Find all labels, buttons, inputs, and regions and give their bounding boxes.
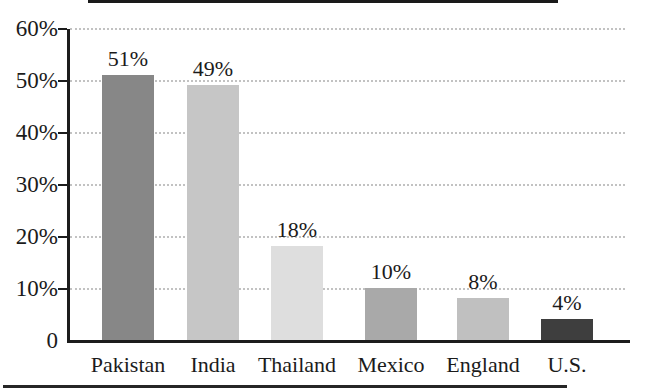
plot-area: 60%50%40%30%20%10%051%Pakistan49%India18… [0,0,648,388]
y-axis-tick-label: 60% [0,15,58,43]
y-axis-tick-label: 40% [0,119,58,147]
y-axis-tick-label: 20% [0,223,58,251]
bar [365,288,417,340]
bar [457,298,509,340]
y-axis-tick-label: 30% [0,171,58,199]
y-axis-tick [58,236,67,238]
grid-line [70,28,625,30]
y-axis-tick [58,132,67,134]
y-axis-line [67,29,70,343]
y-axis-tick-label: 50% [0,67,58,95]
y-axis-tick-label: 10% [0,275,58,303]
x-axis-line [67,340,630,343]
bar [541,319,593,340]
bar-value-label: 18% [237,216,357,244]
bar [187,85,239,340]
bar-value-label: 49% [153,55,273,83]
y-axis-tick [58,288,67,290]
x-category-label: U.S. [507,352,627,378]
bar-value-label: 4% [507,289,627,317]
y-axis-tick [58,80,67,82]
y-axis-tick [58,184,67,186]
bar [271,246,323,340]
bar [102,75,154,340]
bar-chart-figure: 60%50%40%30%20%10%051%Pakistan49%India18… [0,0,648,388]
y-axis-tick [58,28,67,30]
y-axis-tick-label: 0 [0,327,58,355]
